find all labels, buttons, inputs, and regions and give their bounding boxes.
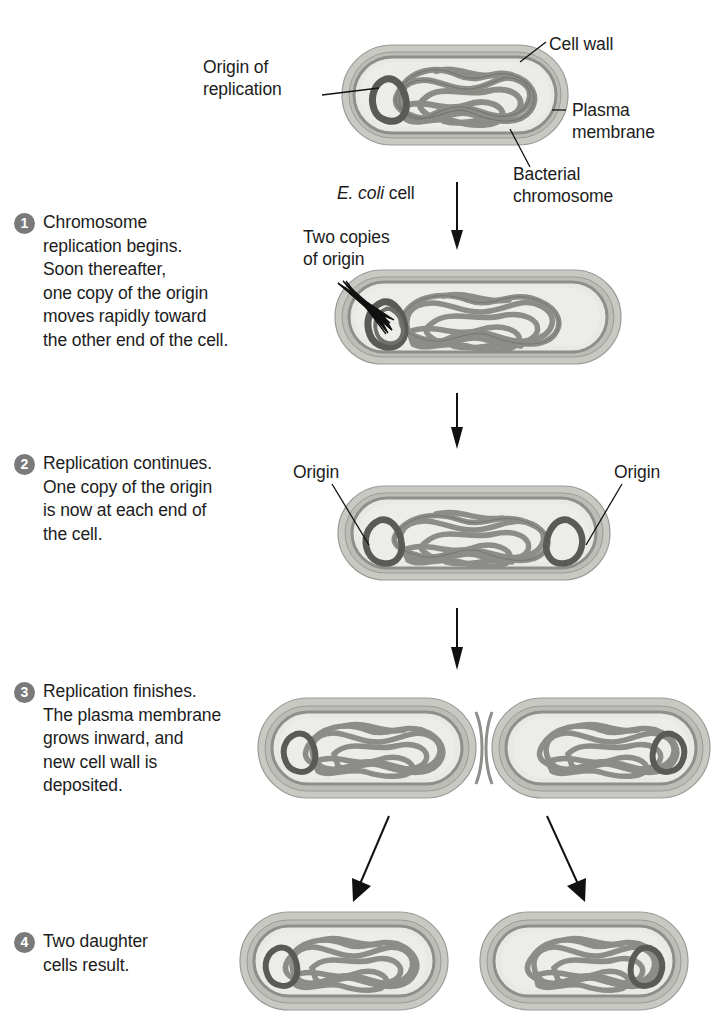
step-2-text: Replication continues. One copy of the o… [43, 452, 212, 546]
replication-begins-cell [333, 262, 623, 372]
step-3-badge: 3 [14, 682, 35, 703]
daughter-cell-right [478, 902, 690, 1020]
parent-cell [340, 35, 570, 155]
step-3-text: Replication finishes. The plasma membran… [43, 680, 221, 798]
step-2-badge: 2 [14, 454, 35, 475]
step-1-badge: 1 [14, 213, 35, 234]
step-4-text: Two daughter cells result. [43, 930, 148, 977]
label-origin-of-replication: Origin of replication [203, 56, 323, 100]
step-1-text: Chromosome replication begins. Soon ther… [43, 211, 228, 352]
label-origin-left: Origin [293, 461, 339, 483]
step-3: 3 Replication finishes. The plasma membr… [14, 680, 294, 798]
step-2: 2 Replication continues. One copy of the… [14, 452, 304, 546]
figure-canvas: Origin of replication Cell wall Plasma m… [0, 0, 713, 1034]
label-origin-right: Origin [614, 461, 660, 483]
step-4-badge: 4 [14, 932, 35, 953]
replication-continues-cell [336, 478, 612, 588]
ecoli-cell-word: cell [384, 183, 415, 203]
label-two-copies-of-origin: Two copies of origin [303, 226, 390, 270]
ecoli-species-name: E. coli [337, 183, 384, 203]
step-1: 1 Chromosome replication begins. Soon th… [14, 211, 314, 352]
dividing-cell [256, 688, 712, 814]
label-ecoli-cell: E. coli cell [337, 160, 415, 204]
daughter-cell-left [238, 902, 450, 1020]
label-cell-wall: Cell wall [549, 33, 613, 55]
step-4: 4 Two daughter cells result. [14, 930, 244, 977]
label-bacterial-chromosome: Bacterial chromosome [513, 163, 613, 207]
label-plasma-membrane: Plasma membrane [572, 99, 655, 143]
